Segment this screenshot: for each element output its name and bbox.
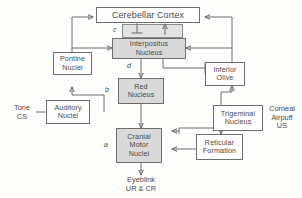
node-cerebellar-cortex[interactable]: Cerebellar Cortex bbox=[96, 7, 200, 23]
node-cranial-motor-nuclei[interactable]: Cranial Motor Nuclei bbox=[116, 128, 162, 163]
marker-c: c bbox=[113, 26, 117, 33]
circuit-diagram: Cerebellar Cortex Interpositus Nucleus P… bbox=[0, 0, 302, 198]
node-interpositus-nucleus[interactable]: Interpositus Nucleus bbox=[112, 38, 186, 59]
node-pontine-nuclei[interactable]: Pontine Nuclei bbox=[53, 52, 92, 75]
label-eyeblink-output: Eyeblink UR & CR bbox=[110, 176, 172, 193]
node-red-nucleus[interactable]: Red Nucleus bbox=[118, 78, 164, 104]
label-corneal-airpuff-us: Corneal Airpuff US bbox=[263, 105, 301, 131]
marker-d: d bbox=[127, 62, 131, 69]
node-trigeminal-nucleus[interactable]: Trigeminal Nucleus bbox=[213, 105, 263, 131]
marker-b: b bbox=[105, 86, 109, 93]
wire-interpositus-to-olive-inhibitory bbox=[163, 59, 205, 68]
marker-a: a bbox=[104, 141, 108, 148]
label-tone-cs: Tone CS bbox=[8, 104, 36, 121]
node-auditory-nuclei[interactable]: Auditory Nuclei bbox=[46, 100, 90, 124]
node-inferior-olive[interactable]: Inferior Olive bbox=[205, 62, 245, 86]
node-reticular-formation[interactable]: Reticular Formation bbox=[196, 134, 243, 160]
